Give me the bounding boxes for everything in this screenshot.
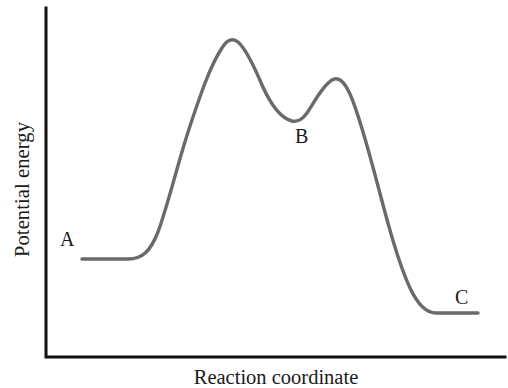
annotation-label-b: B — [295, 125, 308, 148]
x-axis-label: Reaction coordinate — [46, 366, 506, 388]
y-axis-label-text: Potential energy — [11, 121, 34, 256]
y-axis-label: Potential energy — [0, 0, 44, 378]
chart-axes — [46, 8, 505, 357]
annotation-label-c: C — [455, 286, 468, 309]
energy-profile-curve — [82, 40, 478, 313]
annotation-label-a: A — [60, 228, 74, 251]
